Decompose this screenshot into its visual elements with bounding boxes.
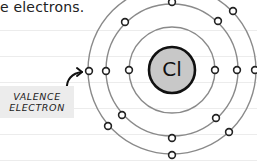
electron-outer-5 xyxy=(226,129,233,136)
electron-middle-8 xyxy=(169,0,176,5)
electron-middle-6 xyxy=(213,115,220,122)
electron-middle-4 xyxy=(234,67,241,74)
electron-middle-1 xyxy=(122,19,129,26)
electron-inner-1 xyxy=(126,67,133,74)
bohr-model-diagram xyxy=(0,0,257,162)
electron-middle-5 xyxy=(119,112,126,119)
electron-outer-3 xyxy=(252,67,257,74)
label-line-1: VALENCE xyxy=(0,91,74,102)
electron-outer-4 xyxy=(105,123,112,130)
electron-outer-6 xyxy=(169,152,176,159)
valence-electron-label: VALENCE ELECTRON xyxy=(0,86,74,118)
electron-outer-1 xyxy=(230,8,237,15)
label-line-2: ELECTRON xyxy=(0,102,74,113)
electron-middle-2 xyxy=(215,18,222,25)
electron-middle-3 xyxy=(103,68,110,75)
element-symbol: Cl xyxy=(158,57,186,81)
electron-middle-7 xyxy=(169,135,176,142)
electron-outer-2 xyxy=(86,68,93,75)
electron-inner-2 xyxy=(212,67,219,74)
